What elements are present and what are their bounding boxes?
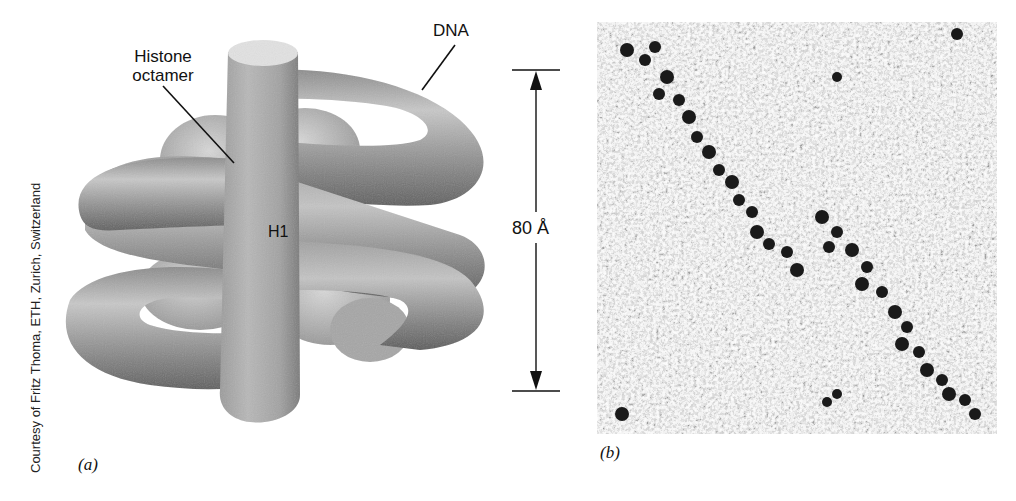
micrograph-image [597, 22, 997, 434]
figure: Histone octamer DNA H1 80 Å Courtesy of … [0, 0, 1016, 501]
panel-label-a: (a) [78, 455, 98, 475]
panel-label-b: (b) [600, 443, 620, 463]
label-h1: H1 [268, 222, 288, 241]
arrow-down-icon [530, 371, 542, 390]
dna-leader-line [422, 45, 455, 90]
label-dimension-80-angstrom: 80 Å [512, 217, 549, 240]
panel-a-nucleosome-model: Histone octamer DNA H1 80 Å Courtesy of … [0, 0, 590, 501]
nucleosome-model-illustration [0, 0, 590, 501]
arrow-up-icon [530, 71, 542, 90]
panel-b-electron-micrograph [597, 22, 997, 434]
image-credit: Courtesy of Fritz Thoma, ETH, Zurich, Sw… [28, 183, 43, 473]
label-dna: DNA [433, 21, 469, 40]
label-histone-octamer: Histone octamer [123, 47, 203, 85]
